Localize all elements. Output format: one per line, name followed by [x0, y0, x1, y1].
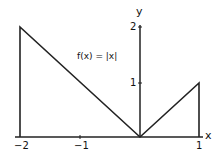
x-axis-label: x [205, 130, 212, 141]
y-axis-label: y [136, 6, 143, 17]
y-tick-label-1: 1 [130, 78, 136, 88]
x-tick-label-1: 1 [196, 141, 202, 151]
x-tick-label-minus1: −1 [74, 141, 89, 151]
function-curve [20, 27, 199, 137]
y-tick-label-2: 2 [130, 22, 136, 32]
function-annotation: f(x) = |x| [77, 52, 117, 61]
x-tick-label-minus2: −2 [14, 141, 29, 151]
plot-canvas [0, 0, 221, 157]
